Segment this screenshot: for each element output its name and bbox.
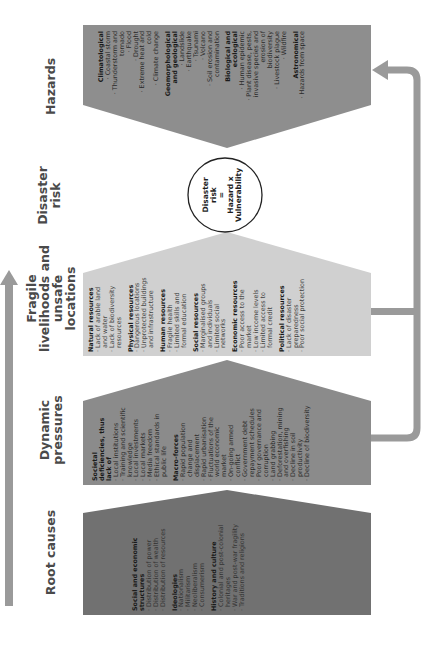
- root-causes-text: Social and economic structures· Distribu…: [132, 521, 282, 611]
- list-item: · Fluctuations of the world economic mar…: [208, 405, 229, 481]
- section: Macro-forces· Rapid population change an…: [173, 405, 311, 481]
- section: Natural resources· Lack of arable land a…: [88, 276, 123, 352]
- section-heading: Geomorphological and geological: [165, 31, 179, 103]
- section: Economic resources· Poor access to the m…: [232, 276, 273, 352]
- list-item: · Colonial and post-colonial heritages: [218, 521, 232, 611]
- list-item: · Lack of biodiversity resources: [109, 276, 123, 352]
- list-item: · Hazards from space: [299, 31, 306, 103]
- list-item: · Distribution of resources: [160, 521, 167, 611]
- fragile-livelihoods-text: Natural resources· Lack of arable land a…: [88, 276, 366, 352]
- section: History and culture· Colonial and post-c…: [211, 521, 246, 611]
- section: Biological and ecological· Human epidemi…: [225, 31, 287, 103]
- list-item: · Traditions and religions: [239, 521, 246, 611]
- list-item: · Poor governance and corruption: [256, 405, 270, 481]
- list-item: · Plant disease, pests, invasive species…: [246, 31, 274, 103]
- section: Human resources· Fragile health· Limited…: [160, 276, 188, 352]
- section: Physical resources· Dangerous locations·…: [128, 276, 156, 352]
- list-item: · Thunderstorm and tornado: [112, 31, 126, 103]
- list-item: · Rapid population change and displaceme…: [180, 405, 201, 481]
- list-item: · Training and scientific knowledge: [120, 405, 134, 481]
- list-item: · Soil erosion and contamination: [207, 31, 221, 103]
- progression-arrow: [0, 270, 18, 606]
- list-item: · Climate change: [153, 31, 160, 103]
- list-item: · Poor access to the market: [239, 276, 253, 352]
- list-item: · Decline of biodiversity: [304, 405, 311, 481]
- hazards-text: Climatological· Coastal storm· Thunderst…: [98, 31, 360, 103]
- risk-formula: Disaster risk = Hazard x Vulnerability: [202, 160, 243, 230]
- formula-line: Vulnerability: [235, 160, 243, 230]
- title-dynamic-pressures: Dynamic pressures: [38, 375, 64, 485]
- section: Ideologies· Nationalism· Militarism· Neo…: [172, 521, 207, 611]
- section: Climatological· Coastal storm· Thunderst…: [98, 31, 160, 103]
- title-hazards: Hazards: [44, 25, 57, 148]
- list-item: · Consumerism: [199, 521, 206, 611]
- list-item: · Extreme heat and cold: [139, 31, 153, 103]
- list-item: · Deforestation, mining and overfishing: [277, 405, 291, 481]
- list-item: · Poor social protection: [299, 276, 306, 352]
- list-item: · Limited access to formal credit: [260, 276, 274, 352]
- list-item: · Decline in soil productivity: [290, 405, 304, 481]
- list-item: · Wildfire: [281, 31, 288, 103]
- section: Social and economic structures· Distribu…: [132, 521, 167, 611]
- section: Astronomical· Hazards from space: [293, 31, 307, 103]
- list-item: · Ethical standards in public life: [154, 405, 168, 481]
- disaster-risk-diagram: Root causes Dynamic pressures Fragile li…: [0, 0, 422, 653]
- dynamic-pressures-text: Societal deficiencies, thus lack of· Loc…: [92, 405, 362, 481]
- list-item: · Government debt repayment schedules: [242, 405, 256, 481]
- title-root-causes: Root causes: [44, 490, 57, 615]
- list-item: · Lack of arable land and water: [95, 276, 109, 352]
- list-item: · Limited social networks: [214, 276, 228, 352]
- title-fragile-livelihoods: Fragile livelihoods and unsafe locations: [25, 241, 77, 356]
- section-heading: Societal deficiencies, thus lack of: [92, 405, 113, 481]
- list-item: · Unprotected buildings and infrastructu…: [141, 276, 155, 352]
- section: Political resources· Lack of disaster pr…: [279, 276, 307, 352]
- list-item: · Lack of disaster preparedness: [286, 276, 300, 352]
- list-item: · On-going armed conflict: [228, 405, 242, 481]
- section-heading: Biological and ecological: [225, 31, 239, 103]
- section-heading: Social and economic structures: [132, 521, 146, 611]
- list-item: · Marginalised groups and individuals: [200, 276, 214, 352]
- feedback-arrow: [371, 60, 417, 438]
- section: Social resources· Marginalised groups an…: [193, 276, 228, 352]
- title-disaster-risk: Disaster risk: [36, 158, 62, 233]
- section: Geomorphological and geological· Landsli…: [165, 31, 220, 103]
- section: Societal deficiencies, thus lack of· Loc…: [92, 405, 168, 481]
- list-item: · Limited skills and formal education: [174, 276, 188, 352]
